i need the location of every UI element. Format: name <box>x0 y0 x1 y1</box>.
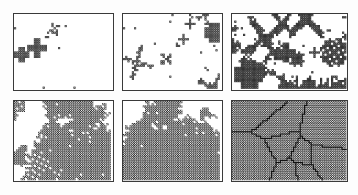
panel-stage-2 <box>122 13 223 91</box>
panel-stage-1 <box>13 13 114 91</box>
figure-grid <box>0 0 358 195</box>
panel-stage-4 <box>13 100 114 182</box>
panel-stage-3 <box>231 13 348 91</box>
panel-stage-6 <box>231 100 348 182</box>
panel-stage-5 <box>122 100 223 182</box>
